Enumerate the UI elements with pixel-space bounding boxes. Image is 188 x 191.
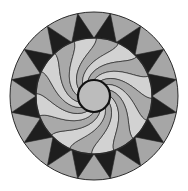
center-hub bbox=[78, 80, 110, 112]
mandala-figure bbox=[0, 0, 188, 191]
